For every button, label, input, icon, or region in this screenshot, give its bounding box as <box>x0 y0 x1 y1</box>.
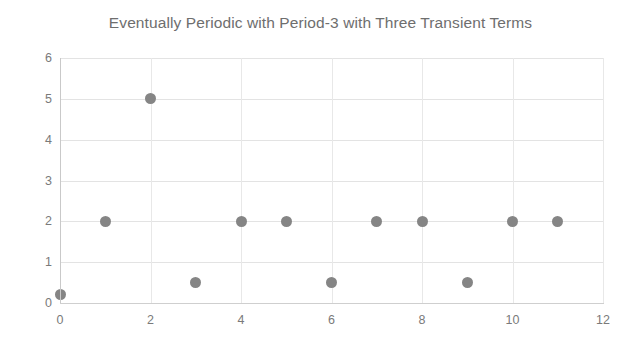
y-axis-tick-labels: 0 1 2 3 4 5 6 <box>22 58 52 303</box>
y-tick-label: 3 <box>26 174 52 188</box>
x-tick-label: 8 <box>402 313 442 327</box>
gridline-vertical <box>332 58 333 303</box>
y-tick-label: 0 <box>26 296 52 310</box>
x-axis-line <box>60 303 604 304</box>
x-axis-tick-labels: 0 2 4 6 8 10 12 <box>60 313 604 333</box>
data-point <box>462 277 473 288</box>
x-tick-label: 2 <box>131 313 171 327</box>
data-point <box>507 216 518 227</box>
x-tick-label: 6 <box>312 313 352 327</box>
plot-area <box>60 58 603 303</box>
x-tick-label: 12 <box>583 313 623 327</box>
chart-title: Eventually Periodic with Period-3 with T… <box>0 14 641 32</box>
x-tick-label: 4 <box>221 313 261 327</box>
gridline-vertical <box>422 58 423 303</box>
data-point <box>552 216 563 227</box>
data-point <box>417 216 428 227</box>
gridline-vertical <box>241 58 242 303</box>
data-point <box>326 277 337 288</box>
data-point <box>145 93 156 104</box>
y-tick-label: 4 <box>26 133 52 147</box>
y-tick-label: 6 <box>26 51 52 65</box>
data-point <box>371 216 382 227</box>
data-point <box>236 216 247 227</box>
plot-right-border <box>603 58 604 304</box>
data-point <box>281 216 292 227</box>
data-point <box>100 216 111 227</box>
data-point <box>190 277 201 288</box>
x-tick-label: 10 <box>493 313 533 327</box>
y-tick-label: 5 <box>26 92 52 106</box>
gridline-vertical <box>513 58 514 303</box>
y-tick-label: 1 <box>26 255 52 269</box>
y-axis-line <box>60 58 61 304</box>
y-tick-label: 2 <box>26 214 52 228</box>
chart-figure: Eventually Periodic with Period-3 with T… <box>0 0 641 352</box>
x-tick-label: 0 <box>40 313 80 327</box>
